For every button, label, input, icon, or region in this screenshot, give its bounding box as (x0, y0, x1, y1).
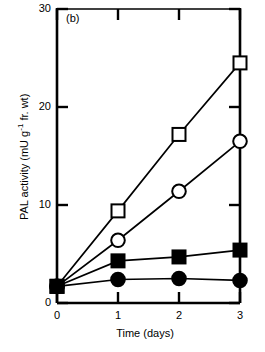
data-point-open-circle (111, 233, 125, 247)
data-point-filled-circle (50, 280, 64, 294)
y-axis-title: PAL activity (mU g-1 fr. wt) (16, 57, 30, 257)
data-point-open-square (112, 204, 125, 217)
x-tick-label: 2 (169, 309, 189, 321)
y-tick-label: 30 (27, 2, 51, 14)
data-point-open-square (173, 128, 186, 141)
x-tick-label: 3 (230, 309, 250, 321)
x-tick-label: 1 (108, 309, 128, 321)
figure-panel-b: (b) 0102030 0123 PAL activity (mU g-1 fr… (0, 0, 265, 352)
y-axis-title-suffix: fr. wt) (18, 94, 30, 124)
series-line-open-circle (57, 141, 240, 286)
x-axis-title: Time (days) (45, 327, 245, 339)
y-axis-title-prefix: PAL activity (mU g (18, 131, 30, 220)
series-line-filled-circle (57, 279, 240, 287)
panel-label: (b) (66, 12, 79, 24)
data-point-filled-circle (172, 272, 186, 286)
data-point-filled-square (234, 244, 247, 257)
data-point-open-circle (233, 135, 247, 149)
series-line-filled-square (57, 250, 240, 286)
y-axis-title-exponent: -1 (16, 124, 25, 131)
x-tick-label: 0 (47, 309, 67, 321)
data-point-filled-square (112, 254, 125, 267)
y-tick-label: 0 (27, 296, 51, 308)
data-point-open-circle (172, 184, 186, 198)
data-point-filled-circle (233, 274, 247, 288)
y-tick-label: 10 (27, 198, 51, 210)
data-point-filled-circle (111, 273, 125, 287)
data-series-group (50, 56, 247, 293)
data-point-filled-square (173, 250, 186, 263)
data-point-open-square (234, 56, 247, 69)
y-tick-label: 20 (27, 100, 51, 112)
